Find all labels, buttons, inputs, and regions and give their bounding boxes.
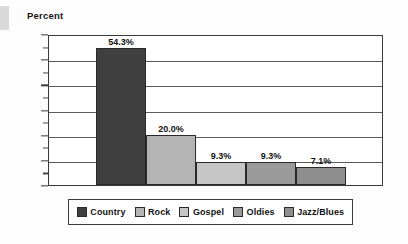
y-axis-tick-mark [41,60,48,61]
chart-legend: CountryRockGospelOldiesJazz/Blues [68,199,353,225]
y-axis: 0%10%20%30%40%50%60% [0,0,48,244]
legend-item-gospel[interactable]: Gospel [179,207,224,217]
y-axis-tick-mark [41,160,48,161]
legend-item-jazz-blues[interactable]: Jazz/Blues [284,207,345,217]
y-axis-tick-mark [41,110,48,111]
legend-swatch-icon [135,207,145,217]
bar-rock [146,135,196,185]
legend-swatch-icon [233,207,243,217]
y-axis-tick-mark [41,135,48,136]
legend-item-country[interactable]: Country [77,207,126,217]
y-axis-tick-mark [41,34,48,35]
legend-swatch-icon [284,207,294,217]
y-axis-tick-mark [41,185,48,186]
legend-label: Jazz/Blues [297,207,344,217]
bar-country [96,48,146,185]
chart-page: Percent 0%10%20%30%40%50%60% 54.3%20.0%9… [0,0,408,244]
y-axis-tick-mark [41,85,48,86]
bar-value-label: 20.0% [146,124,196,134]
legend-label: Oldies [247,207,275,217]
legend-item-oldies[interactable]: Oldies [233,207,275,217]
legend-label: Rock [148,207,170,217]
bar-value-label: 7.1% [296,156,346,166]
legend-swatch-icon [77,207,87,217]
legend-swatch-icon [179,207,189,217]
bar-jazz-blues [296,167,346,185]
legend-label: Gospel [193,207,224,217]
legend-label: Country [90,207,125,217]
legend-item-rock[interactable]: Rock [135,207,171,217]
bar-value-label: 9.3% [196,151,246,161]
bar-value-label: 9.3% [246,151,296,161]
bar-value-label: 54.3% [96,37,146,47]
bar-oldies [246,162,296,185]
bar-gospel [196,162,246,185]
bar-series: 54.3%20.0%9.3%9.3%7.1% [48,35,383,186]
